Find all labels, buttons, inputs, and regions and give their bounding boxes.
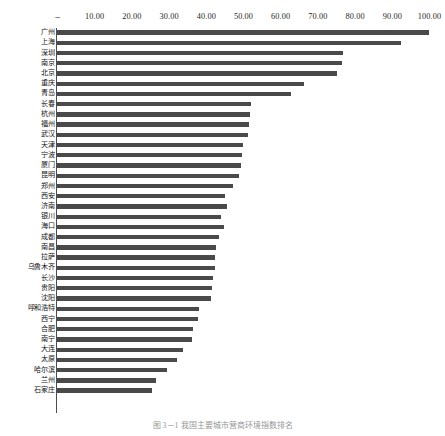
plot-area: [56, 28, 445, 413]
bar-row: [57, 345, 445, 355]
y-tick-label: 成都: [41, 234, 55, 242]
bar-row: [57, 110, 445, 120]
y-tick-label: 重庆: [41, 80, 55, 88]
x-tick-label: 50.00: [234, 11, 253, 23]
bar-row: [57, 314, 445, 324]
x-tick-label: 100.00: [418, 11, 441, 23]
bar-row: [57, 141, 445, 151]
bar: [57, 92, 291, 96]
bar-row: [57, 366, 445, 376]
x-tick-label: 70.00: [308, 11, 327, 23]
bar-row: [57, 79, 445, 89]
bar: [57, 82, 304, 86]
figure-caption: 图 3－1 我国主要城市营商环境指数排名: [0, 420, 445, 431]
bar: [57, 143, 243, 147]
bar-row: [57, 48, 445, 58]
y-tick-label: 石家庄: [34, 387, 55, 395]
bar-row: [57, 253, 445, 263]
bar: [57, 368, 167, 372]
bar-row: [57, 89, 445, 99]
x-axis-tick-labels: –10.0020.0030.0040.0050.0060.0070.0080.0…: [0, 11, 445, 25]
x-tick-label: 10.00: [85, 11, 104, 23]
y-tick-label: 宁波: [41, 152, 55, 160]
y-tick-label: 贵阳: [41, 285, 55, 293]
y-tick-label: 乌鲁木齐: [28, 265, 55, 273]
bar-row: [57, 386, 445, 396]
y-tick-label: 拉萨: [41, 254, 55, 262]
y-tick-label: 南京: [41, 60, 55, 68]
bar: [57, 358, 177, 362]
bar: [57, 307, 199, 311]
y-tick-label: 昆明: [41, 173, 55, 181]
bar: [57, 378, 156, 382]
bar-row: [57, 294, 445, 304]
y-tick-label: 武汉: [41, 132, 55, 140]
bar-row: [57, 161, 445, 171]
bar-row: [57, 263, 445, 273]
y-tick-label: 福州: [41, 121, 55, 129]
bar: [57, 296, 211, 300]
x-tick-label: –: [55, 11, 60, 23]
bar-row: [57, 376, 445, 386]
bar: [57, 122, 249, 126]
bar: [57, 71, 337, 75]
bar-row: [57, 151, 445, 161]
bar-row: [57, 274, 445, 284]
y-tick-label: 西安: [41, 193, 55, 201]
bar: [57, 225, 224, 229]
y-tick-label: 广州: [41, 29, 55, 37]
bar-row: [57, 100, 445, 110]
bar: [57, 286, 212, 290]
bar-row: [57, 304, 445, 314]
x-tick-label: 40.00: [197, 11, 216, 23]
x-tick-label: 80.00: [346, 11, 365, 23]
y-tick-label: 上海: [41, 40, 55, 48]
bar-row: [57, 59, 445, 69]
bar: [57, 276, 213, 280]
bar: [57, 41, 401, 45]
bar: [57, 153, 242, 157]
bar-row: [57, 38, 445, 48]
bar-row: [57, 212, 445, 222]
bar: [57, 51, 343, 55]
bar: [57, 317, 198, 321]
y-tick-label: 长沙: [41, 275, 55, 283]
y-tick-label: 西宁: [41, 316, 55, 324]
x-tick-label: 30.00: [160, 11, 179, 23]
y-tick-label: 长春: [41, 101, 55, 109]
bar: [57, 61, 342, 65]
bar: [57, 215, 221, 219]
y-tick-label: 厦门: [41, 162, 55, 170]
bar-row: [57, 355, 445, 365]
y-tick-label: 沈阳: [41, 295, 55, 303]
y-tick-label: 南宁: [41, 336, 55, 344]
bars-layer: [57, 28, 445, 413]
bar: [57, 133, 248, 137]
bar: [57, 235, 219, 239]
y-tick-label: 合肥: [41, 326, 55, 334]
bar-row: [57, 181, 445, 191]
bar: [57, 388, 152, 392]
y-tick-label: 太原: [41, 357, 55, 365]
x-tick-label: 90.00: [383, 11, 402, 23]
y-tick-label: 呼和浩特: [28, 306, 55, 314]
x-tick-label: 20.00: [122, 11, 141, 23]
y-tick-label: 南昌: [41, 244, 55, 252]
bar: [57, 327, 193, 331]
bar: [57, 112, 250, 116]
x-tick-label: 60.00: [271, 11, 290, 23]
bar-row: [57, 284, 445, 294]
bar-row: [57, 28, 445, 38]
y-tick-label: 济南: [41, 203, 55, 211]
y-tick-label: 郑州: [41, 183, 55, 191]
bar-row: [57, 130, 445, 140]
y-tick-label: 兰州: [41, 377, 55, 385]
bar: [57, 194, 225, 198]
bar: [57, 245, 216, 249]
bar: [57, 266, 215, 270]
bar-row: [57, 335, 445, 345]
y-tick-label: 深圳: [41, 50, 55, 58]
bar-row: [57, 325, 445, 335]
y-tick-label: 天津: [41, 142, 55, 150]
bar: [57, 255, 215, 259]
